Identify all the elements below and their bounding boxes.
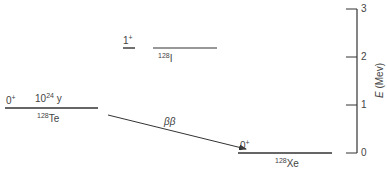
te-nucleus-label: 128Te: [37, 114, 59, 124]
i-nucleus-label: 128I: [158, 54, 172, 64]
axis-tick-label-0: 0: [361, 148, 367, 158]
xe-spin-parity-label: 0+: [240, 141, 250, 151]
double-beta-label: ββ: [164, 117, 175, 127]
axis-tick-label-2: 2: [361, 52, 367, 62]
i-spin-parity-label: 1+: [123, 36, 133, 46]
double-beta-arrow: [108, 115, 246, 149]
te-half-life-label: 1024 y: [35, 94, 62, 104]
xe-nucleus-label: 128Xe: [275, 159, 299, 169]
te-spin-parity-label: 0+: [6, 96, 16, 106]
axis-tick-label-1: 1: [361, 100, 367, 110]
diagram-canvas: [0, 0, 387, 172]
axis-tick-label-3: 3: [361, 4, 367, 14]
energy-axis-title: E (Mev): [374, 56, 385, 106]
